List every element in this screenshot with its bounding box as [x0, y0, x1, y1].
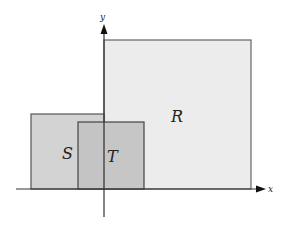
region-r-label: R	[170, 107, 183, 126]
region-s-label: S	[62, 144, 73, 163]
y-axis-label: y	[99, 12, 106, 22]
region-t-label: T	[107, 147, 119, 166]
y-axis-arrow-icon	[101, 24, 108, 34]
diagram-canvas: x y R S T	[0, 0, 288, 227]
x-axis-arrow-icon	[256, 186, 266, 193]
x-axis-label: x	[268, 184, 273, 194]
